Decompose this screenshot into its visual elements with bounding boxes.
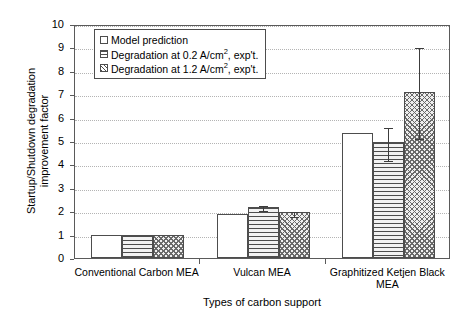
- x-axis-separator-tick: [199, 259, 200, 264]
- error-bar-cap: [384, 128, 393, 129]
- bar: [248, 207, 279, 258]
- error-bar-cap: [415, 139, 424, 140]
- y-axis-tick-label: 10: [42, 19, 64, 30]
- bar: [122, 235, 153, 258]
- legend-item-2: Degradation at 1.2 A/cm2, exp't.: [100, 61, 258, 75]
- y-axis-tick-label: 2: [42, 206, 64, 217]
- legend-item-1: Degradation at 0.2 A/cm2, exp't.: [100, 47, 258, 61]
- x-axis-category-label: Vulcan MEA: [199, 266, 324, 278]
- error-bar-cap: [259, 211, 268, 212]
- legend-item-0: Model prediction: [100, 33, 258, 47]
- y-axis-tick: [70, 259, 74, 260]
- x-axis-category-label: Graphitized Ketjen Black MEA: [325, 266, 450, 290]
- error-bar-cap: [415, 48, 424, 49]
- bar: [153, 235, 184, 258]
- error-bar-cap: [384, 161, 393, 162]
- y-axis-tick-label: 6: [42, 113, 64, 124]
- legend-label-0: Model prediction: [111, 34, 188, 46]
- legend-label-1: Degradation at 0.2 A/cm2, exp't.: [111, 47, 258, 61]
- y-axis-title-line1: Startup/Shutdown degradation: [25, 21, 38, 261]
- legend-label-2: Degradation at 1.2 A/cm2, exp't.: [111, 61, 258, 75]
- y-axis-tick-label: 4: [42, 159, 64, 170]
- error-bar: [419, 48, 420, 139]
- error-bar-cap: [259, 206, 268, 207]
- y-axis-tick-label: 9: [42, 42, 64, 53]
- y-axis-tick-label: 8: [42, 66, 64, 77]
- chart-figure: Startup/Shutdown degradation improvement…: [0, 0, 464, 317]
- x-axis-separator-tick: [325, 259, 326, 264]
- bar: [91, 235, 122, 258]
- y-axis-tick-label: 0: [42, 253, 64, 264]
- bar: [342, 133, 373, 258]
- y-axis-tick-label: 3: [42, 183, 64, 194]
- legend-swatch-degradation-02-icon: [100, 50, 108, 58]
- y-axis-tick-label: 5: [42, 136, 64, 147]
- error-bar-cap: [290, 217, 299, 218]
- chart-legend: Model prediction Degradation at 0.2 A/cm…: [94, 29, 266, 79]
- x-axis-category-label: Conventional Carbon MEA: [74, 266, 199, 278]
- error-bar-cap: [290, 212, 299, 213]
- x-axis-title: Types of carbon support: [74, 296, 450, 308]
- error-bar: [388, 128, 389, 161]
- legend-swatch-degradation-12-icon: [100, 64, 108, 72]
- legend-swatch-model-prediction-icon: [100, 36, 108, 44]
- bar: [279, 212, 310, 258]
- y-axis-tick-label: 7: [42, 89, 64, 100]
- y-axis-tick-label: 1: [42, 230, 64, 241]
- bar: [217, 214, 248, 258]
